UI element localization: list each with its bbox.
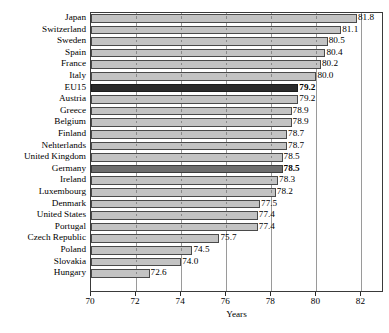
bar-switzerland [91,26,341,35]
category-label-slovakia: Slovakia [0,256,86,268]
category-label-united-kingdom: United Kingdom [0,151,86,163]
bar-hungary [91,269,150,278]
category-label-czech-republic: Czech Republic [0,232,86,244]
bar-gridline-notch [271,190,272,193]
bar-portugal [91,223,258,232]
category-label-switzerland: Switzerland [0,24,86,36]
bar-gridline-notch [271,16,272,19]
category-label-hungary: Hungary [0,267,86,279]
bar-spain [91,49,325,58]
value-label-czech-republic: 75.7 [220,232,236,244]
bar-gridline-notch [136,248,137,251]
bar-gridline-notch [136,237,137,240]
category-label-luxembourg: Luxembourg [0,186,86,198]
bar-gridline-notch [181,179,182,182]
category-label-poland: Poland [0,244,86,256]
category-label-sweden: Sweden [0,35,86,47]
bar-gridline-notch [271,121,272,124]
value-label-spain: 80.4 [326,47,342,59]
bar-gridline-notch [181,190,182,193]
bar-row [91,210,384,222]
bar-gridline-notch [136,28,137,31]
category-label-finland: Finland [0,128,86,140]
bar-row [91,268,384,280]
bar-gridline-notch [136,179,137,182]
bar-gridline-notch [226,190,227,193]
bar-eu15 [91,84,298,93]
value-label-united-kingdom: 78.5 [284,151,300,163]
bar-finland [91,130,287,139]
value-label-ireland: 78.3 [279,174,295,186]
bar-gridline-notch [136,144,137,147]
value-label-hungary: 72.6 [151,267,167,279]
bar-gridline-notch [226,98,227,101]
bar-united-kingdom [91,153,283,162]
bar-gridline-notch [181,132,182,135]
bar-gridline-notch [316,40,317,43]
bar-nehterlands [91,142,287,151]
value-label-denmark: 77.5 [261,198,277,210]
bar-denmark [91,200,260,209]
bar-gridline-notch [136,214,137,217]
bar-gridline-notch [181,156,182,159]
bar-gridline-notch [226,51,227,54]
value-label-eu15: 79.2 [299,82,315,94]
category-label-nehterlands: Nehterlands [0,140,86,152]
bar-gridline-notch [226,109,227,112]
category-label-united-states: United States [0,209,86,221]
bar-row [91,129,384,141]
value-label-france: 80.2 [322,58,338,70]
bar-row [91,83,384,95]
category-axis: JapanSwitzerlandSwedenSpainFranceItalyEU… [0,12,88,292]
bar-gridline-notch [226,225,227,228]
value-label-switzerland: 81.1 [342,24,358,36]
bar-ireland [91,176,278,185]
category-label-italy: Italy [0,70,86,82]
bar-gridline-notch [181,237,182,240]
value-label-italy: 80.0 [317,70,333,82]
bar-row [91,233,384,245]
bar-row [91,13,384,25]
bar-row [91,245,384,257]
bar-gridline-notch [181,28,182,31]
category-label-denmark: Denmark [0,198,86,210]
bar-gridline-notch [181,63,182,66]
category-label-eu15: EU15 [0,82,86,94]
bar-row [91,199,384,211]
bar-row [91,164,384,176]
x-tick-label-80: 80 [303,296,327,307]
value-label-nehterlands: 78.7 [288,140,304,152]
bar-gridline-notch [181,202,182,205]
bar-gridline-notch [226,179,227,182]
bar-sweden [91,37,328,46]
category-label-ireland: Ireland [0,174,86,186]
bar-gridline-notch [226,28,227,31]
bar-czech-republic [91,234,219,243]
bar-gridline-notch [316,51,317,54]
bar-gridline-notch [271,74,272,77]
bar-gridline-notch [271,40,272,43]
bar-gridline-notch [226,202,227,205]
bar-gridline-notch [316,16,317,19]
bar-gridline-notch [181,74,182,77]
value-label-poland: 74.5 [193,244,209,256]
value-label-sweden: 80.5 [329,35,345,47]
value-label-slovakia: 74.0 [182,256,198,268]
bar-greece [91,107,292,116]
bar-row [91,94,384,106]
bar-gridline-notch [181,51,182,54]
bar-row [91,175,384,187]
bar-gridline-notch [136,190,137,193]
bar-row [91,71,384,83]
value-label-germany: 78.5 [284,163,300,175]
category-label-austria: Austria [0,93,86,105]
bar-row [91,187,384,199]
bar-chart: JapanSwitzerlandSwedenSpainFranceItalyEU… [0,0,389,333]
bar-gridline-notch [271,156,272,159]
bar-gridline-notch [136,132,137,135]
bar-gridline-notch [136,156,137,159]
bar-gridline-notch [181,214,182,217]
bar-gridline-notch [181,16,182,19]
bar-gridline-notch [181,248,182,251]
bar-gridline-notch [271,98,272,101]
